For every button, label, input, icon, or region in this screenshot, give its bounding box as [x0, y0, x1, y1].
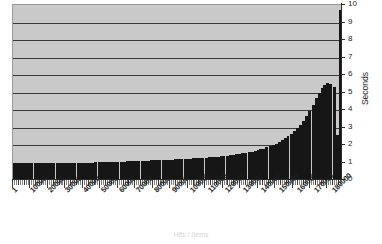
- y-axis-tick: [341, 57, 345, 58]
- y-axis-tick-label: 4: [348, 105, 352, 113]
- y-axis-tick: [341, 92, 345, 93]
- chart-root: 012345678910 110000200003000040000500006…: [0, 0, 382, 244]
- bar-series: [13, 5, 342, 180]
- x-axis-tick: [14, 180, 15, 185]
- y-axis-tick: [341, 162, 345, 163]
- x-axis-tick: [18, 180, 19, 185]
- y-axis-tick: [341, 74, 345, 75]
- x-axis-tick: [24, 180, 25, 185]
- y-axis-tick-label: 9: [348, 18, 352, 26]
- y-axis-tick-label: 10: [348, 0, 357, 8]
- x-axis-tick: [16, 180, 17, 185]
- plot-area: [12, 4, 342, 180]
- x-axis-tick-label: 1: [10, 185, 19, 194]
- y-axis-tick-label: 7: [348, 53, 352, 61]
- x-axis-tick: [22, 180, 23, 185]
- axis-left-edge: [12, 4, 13, 180]
- y-axis-tick-label: 6: [348, 70, 352, 78]
- x-axis-tick: [26, 180, 27, 185]
- y-axis-tick-label: 8: [348, 35, 352, 43]
- y-axis-tick: [341, 144, 345, 145]
- y-axis-tick: [341, 109, 345, 110]
- x-axis-title: Hits / Items: [0, 231, 382, 238]
- y-axis-tick-label: 2: [348, 140, 352, 148]
- y-axis-tick: [341, 39, 345, 40]
- y-axis-title: Seconds: [360, 72, 370, 105]
- y-axis-tick-label: 3: [348, 123, 352, 131]
- y-axis-tick: [341, 127, 345, 128]
- y-axis-tick-label: 5: [348, 88, 352, 96]
- y-axis-tick-label: 1: [348, 158, 352, 166]
- y-axis-tick: [341, 22, 345, 23]
- x-axis-labels: 1100002000030000400005000060000700008000…: [0, 186, 360, 232]
- y-axis-tick: [341, 4, 345, 5]
- x-axis-tick: [20, 180, 21, 185]
